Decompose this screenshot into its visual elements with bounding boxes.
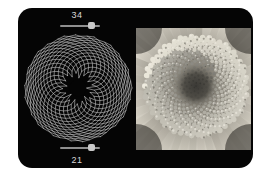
sunflower-macro-photograph [136, 28, 251, 150]
counterclockwise-parastichy-value: 21 [18, 155, 136, 165]
viewer-panel: 34 21 [18, 8, 253, 168]
app-root: 34 21 [0, 0, 265, 174]
spiral-canvas [22, 30, 134, 146]
slider-thumb[interactable] [88, 22, 95, 29]
counterclockwise-parastichy-slider[interactable] [60, 143, 100, 153]
clockwise-parastichy-value: 34 [18, 10, 136, 20]
counterclockwise-parastichy-slider-group: 21 [18, 140, 136, 166]
photograph-canvas [136, 28, 251, 150]
phyllotaxis-spiral-diagram [22, 30, 134, 146]
slider-thumb[interactable] [88, 144, 95, 151]
spiral-column: 34 21 [18, 8, 136, 168]
